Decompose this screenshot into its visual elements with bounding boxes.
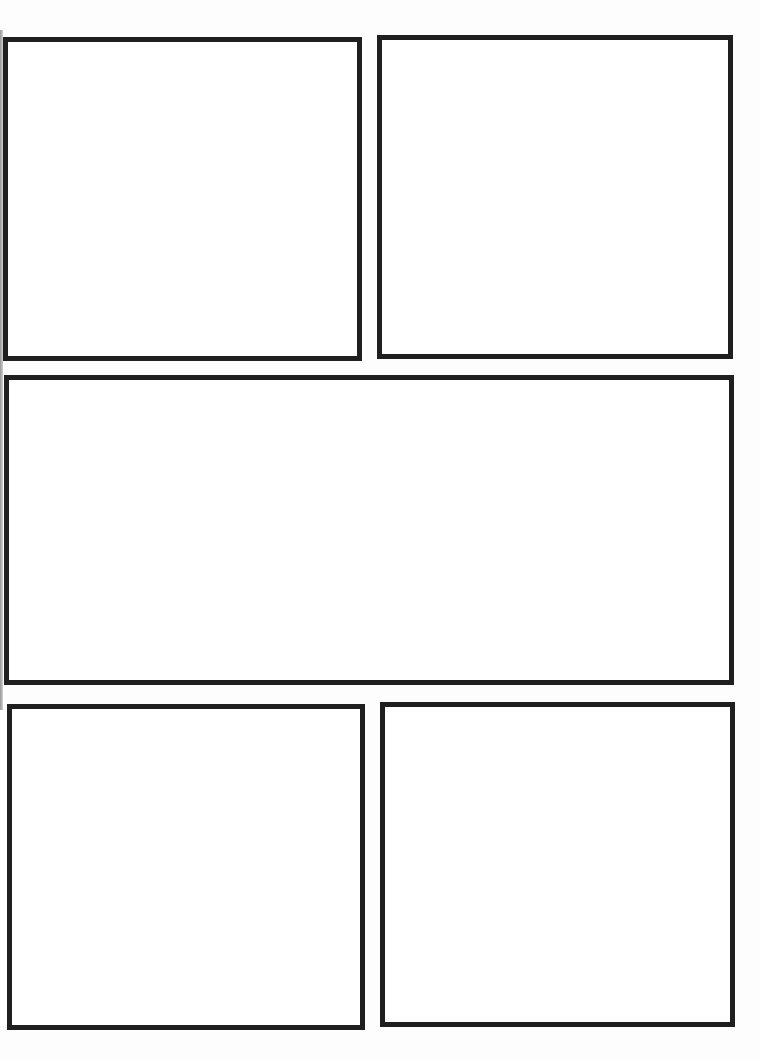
comic-page	[0, 0, 760, 1060]
panel-top-right	[377, 35, 733, 359]
panel-bottom-left	[7, 704, 365, 1030]
panel-middle-wide	[4, 375, 734, 685]
panel-bottom-right	[380, 702, 735, 1027]
panel-top-left	[3, 37, 362, 361]
